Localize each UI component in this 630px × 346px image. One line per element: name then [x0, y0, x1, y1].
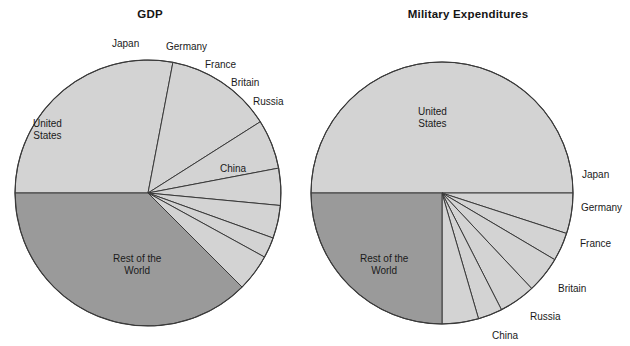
slice-label-military-britain: Britain: [558, 283, 586, 295]
slice-label-military-germany: Germany: [581, 202, 622, 214]
pie-military: [311, 62, 573, 324]
slice-label-gdp-germany: Germany: [166, 41, 207, 53]
slice-label-gdp-united-states: UnitedStates: [33, 118, 62, 141]
pie-gdp: [15, 60, 281, 326]
slice-label-military-france: France: [580, 238, 611, 250]
slice-label-military-russia: Russia: [530, 311, 561, 323]
slice-label-military-rest-of-the-world: Rest of theWorld: [360, 253, 408, 276]
pie-chart-figure: GDP Military Expenditures UnitedStatesJa…: [0, 0, 630, 346]
pie-charts-svg: [0, 0, 630, 346]
slice-label-military-china: China: [492, 330, 518, 342]
slice-label-gdp-britain: Britain: [231, 77, 259, 89]
slice-label-gdp-japan: Japan: [112, 38, 139, 50]
slice-label-gdp-china: China: [220, 163, 246, 175]
slice-label-gdp-rest-of-the-world: Rest of theWorld: [113, 253, 161, 276]
slice-label-military-japan: Japan: [582, 169, 609, 181]
slice-label-gdp-russia: Russia: [253, 96, 284, 108]
slice-label-gdp-france: France: [205, 59, 236, 71]
slice-label-military-united-states: UnitedStates: [418, 106, 447, 129]
